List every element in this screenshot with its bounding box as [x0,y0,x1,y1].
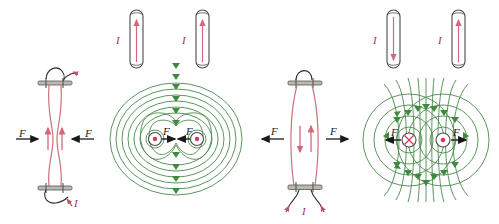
magnetic-force-diagram: F F I I I [0,0,499,224]
force-label-left-3: F [270,125,278,137]
force-label-right-4: F [452,126,460,138]
force-label-left-1: F [18,127,26,139]
current-out-of-page-right-4 [436,133,450,147]
current-into-page-left-4 [402,133,416,147]
force-label-left-2: F [162,125,170,137]
force-label-right-1: F [84,127,92,139]
diagram-background [0,0,499,224]
force-label-right-2: F [185,125,193,137]
force-label-right-3: F [329,125,337,137]
current-out-of-page-left-2 [149,133,162,146]
force-label-left-4: F [390,126,398,138]
